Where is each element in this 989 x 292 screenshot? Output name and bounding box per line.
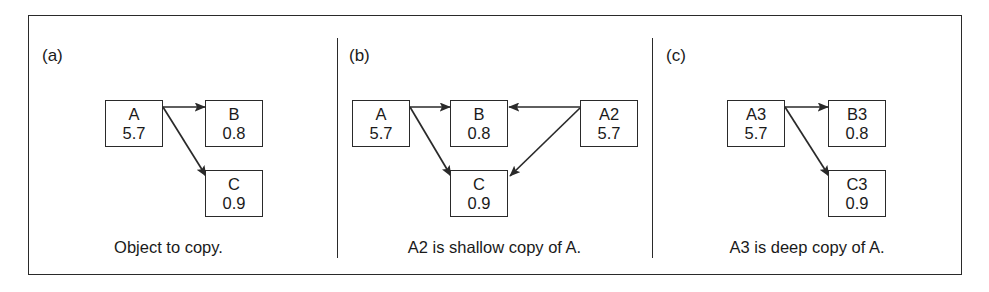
node-label: B — [473, 105, 484, 123]
node-value: 5.7 — [370, 124, 393, 142]
node-value: 0.8 — [846, 124, 869, 142]
node-a-c: C 0.9 — [205, 170, 263, 217]
panel-c-label: (c) — [666, 47, 686, 64]
node-label: A3 — [746, 105, 766, 123]
node-value: 0.8 — [468, 124, 491, 142]
node-label: B3 — [847, 105, 867, 123]
node-b-b: B 0.8 — [450, 100, 508, 147]
panel-a: (a) A 5.7 B 0.8 C 0.9 Object to copy. — [0, 15, 337, 275]
panel-a-caption: Object to copy. — [0, 239, 337, 256]
node-value: 0.9 — [223, 194, 246, 212]
node-value: 0.9 — [468, 194, 491, 212]
panel-b-caption: A2 is shallow copy of A. — [337, 239, 652, 256]
node-label: B — [228, 105, 239, 123]
node-value: 5.7 — [123, 124, 146, 142]
node-a-b: B 0.8 — [205, 100, 263, 147]
panel-c-caption: A3 is deep copy of A. — [652, 239, 962, 256]
node-label: C — [228, 175, 240, 193]
node-c-a3: A3 5.7 — [727, 100, 785, 147]
node-value: 5.7 — [745, 124, 768, 142]
node-value: 5.7 — [598, 124, 621, 142]
panel-c: (c) A3 5.7 B3 0.8 C3 0.9 A3 is deep copy… — [652, 15, 962, 275]
node-label: C3 — [846, 175, 867, 193]
node-b-a2: A2 5.7 — [580, 100, 638, 147]
node-c-c3: C3 0.9 — [828, 170, 886, 217]
panel-a-label: (a) — [42, 47, 63, 64]
node-b-c: C 0.9 — [450, 170, 508, 217]
node-b-a: A 5.7 — [352, 100, 410, 147]
node-label: A — [128, 105, 139, 123]
panel-b-label: (b) — [349, 47, 370, 64]
panel-b: (b) A 5.7 B 0.8 C 0.9 A2 5.7 A2 is shall… — [337, 15, 652, 275]
node-value: 0.8 — [223, 124, 246, 142]
node-label: A — [375, 105, 386, 123]
copy-semantics-figure: (a) A 5.7 B 0.8 C 0.9 Object to copy. (b… — [0, 0, 989, 292]
node-a-a: A 5.7 — [105, 100, 163, 147]
node-c-b3: B3 0.8 — [828, 100, 886, 147]
node-label: A2 — [599, 105, 619, 123]
node-label: C — [473, 175, 485, 193]
node-value: 0.9 — [846, 194, 869, 212]
